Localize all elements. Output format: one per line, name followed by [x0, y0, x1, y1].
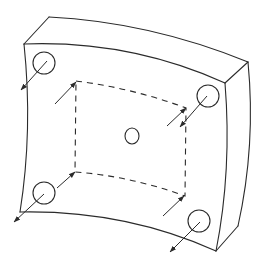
back-top-edge — [49, 17, 248, 62]
top-left-bevel — [24, 17, 49, 44]
plate-diagram — [0, 0, 264, 268]
front-bottom-edge — [20, 212, 216, 251]
hole-center — [125, 128, 139, 144]
front-left-edge — [20, 44, 28, 212]
arrow-bottom-left-inward-icon — [57, 172, 75, 188]
arrow-top-left-inward-icon — [55, 82, 76, 104]
dashed-inner-square — [75, 81, 186, 196]
arrow-top-left-outward-icon — [21, 61, 47, 90]
holes — [33, 52, 219, 232]
diagram-svg — [0, 0, 264, 268]
arrow-bottom-right-outward-icon — [170, 222, 200, 252]
top-right-bevel — [225, 62, 248, 83]
hole-bottom-right — [188, 210, 210, 232]
arrow-top-right-outward-icon — [180, 96, 207, 127]
plate-outline — [20, 17, 250, 251]
hole-top-left — [33, 52, 55, 74]
force-arrows — [14, 61, 207, 252]
back-right-edge — [238, 62, 250, 226]
arrow-bottom-right-inward-icon — [163, 196, 184, 216]
front-top-edge — [24, 44, 225, 83]
front-right-edge — [216, 83, 227, 251]
arrow-bottom-left-outward-icon — [14, 194, 44, 222]
